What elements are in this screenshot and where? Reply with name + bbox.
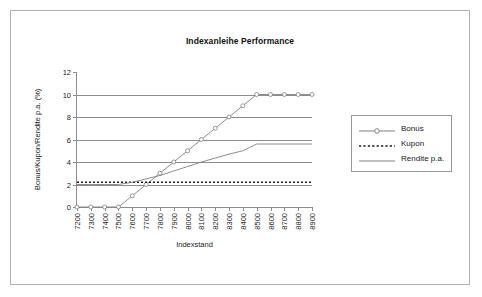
- x-tick-label: 7800: [156, 213, 165, 230]
- x-tick-mark: [284, 207, 285, 211]
- x-tick-mark: [312, 207, 313, 211]
- chart-legend: Bonus Kupon Rendite p.a.: [351, 115, 452, 172]
- data-point-marker: [269, 93, 273, 97]
- x-tick-mark: [132, 207, 133, 211]
- x-tick-label: 8200: [211, 213, 220, 230]
- x-tick-label: 8400: [239, 213, 248, 230]
- y-axis-title: Bonus/Kupon/Rendite p.a. (%): [33, 72, 42, 207]
- data-point-marker: [241, 104, 245, 108]
- x-tick-label: 7500: [114, 213, 123, 230]
- chart-title: Indexanleihe Performance: [11, 36, 469, 46]
- x-tick-mark: [174, 207, 175, 211]
- x-axis-title: Indexstand: [77, 240, 312, 249]
- x-tick-label: 7900: [170, 213, 179, 230]
- x-tick-mark: [257, 207, 258, 211]
- series-rendite-p-a: [77, 144, 312, 185]
- chart-frame: Indexanleihe Performance Bonus/Kupon/Ren…: [10, 10, 470, 285]
- data-point-marker: [130, 194, 134, 198]
- y-tick-label: 10: [63, 90, 71, 99]
- y-tick-label: 6: [67, 135, 71, 144]
- y-tick-label: 12: [63, 68, 71, 77]
- legend-label-kupon: Kupon: [397, 139, 424, 148]
- data-point-marker: [103, 205, 107, 209]
- x-tick-label: 8700: [280, 213, 289, 230]
- x-tick-mark: [201, 207, 202, 211]
- data-point-marker: [186, 149, 190, 153]
- legend-key-bonus: [357, 123, 397, 135]
- data-point-marker: [296, 93, 300, 97]
- x-tick-mark: [229, 207, 230, 211]
- legend-item-rendite: Rendite p.a.: [357, 151, 444, 166]
- x-tick-label: 7300: [87, 213, 96, 230]
- legend-label-bonus: Bonus: [397, 124, 424, 133]
- legend-key-rendite: [357, 153, 397, 165]
- x-tick-mark: [271, 207, 272, 211]
- legend-item-kupon: Kupon: [357, 136, 444, 151]
- data-point-marker: [310, 93, 314, 97]
- x-tick-label: 7600: [128, 213, 137, 230]
- x-tick-label: 8600: [267, 213, 276, 230]
- x-tick-label: 7700: [142, 213, 151, 230]
- x-tick-mark: [298, 207, 299, 211]
- data-point-marker: [172, 160, 176, 164]
- plot-area: 024681012 720073007400750076007700780079…: [77, 72, 312, 207]
- x-tick-label: 8100: [197, 213, 206, 230]
- x-tick-label: 8800: [294, 213, 303, 230]
- data-point-marker: [282, 93, 286, 97]
- series-line: [77, 144, 312, 185]
- data-point-marker: [199, 138, 203, 142]
- data-point-marker: [255, 93, 259, 97]
- series-line: [77, 95, 312, 208]
- x-tick-label: 8500: [253, 213, 262, 230]
- x-tick-mark: [146, 207, 147, 211]
- x-tick-mark: [188, 207, 189, 211]
- y-tick-label: 4: [67, 158, 71, 167]
- legend-key-kupon: [357, 138, 397, 150]
- series-bonus: [75, 93, 314, 210]
- x-tick-mark: [215, 207, 216, 211]
- x-tick-label: 8000: [184, 213, 193, 230]
- data-point-marker: [144, 183, 148, 187]
- legend-item-bonus: Bonus: [357, 121, 444, 136]
- x-tick-mark: [243, 207, 244, 211]
- x-tick-label: 8300: [225, 213, 234, 230]
- x-tick-mark: [160, 207, 161, 211]
- x-tick-label: 7400: [101, 213, 110, 230]
- data-point-marker: [89, 205, 93, 209]
- x-tick-label: 7200: [73, 213, 82, 230]
- data-point-marker: [213, 126, 217, 130]
- x-tick-label: 8900: [308, 213, 317, 230]
- data-point-marker: [227, 115, 231, 119]
- y-tick-label: 0: [67, 203, 71, 212]
- data-point-marker: [116, 205, 120, 209]
- legend-label-rendite: Rendite p.a.: [397, 154, 444, 163]
- data-point-marker: [75, 205, 79, 209]
- series-plot: [77, 72, 312, 207]
- y-tick-label: 8: [67, 113, 71, 122]
- y-tick-label: 2: [67, 180, 71, 189]
